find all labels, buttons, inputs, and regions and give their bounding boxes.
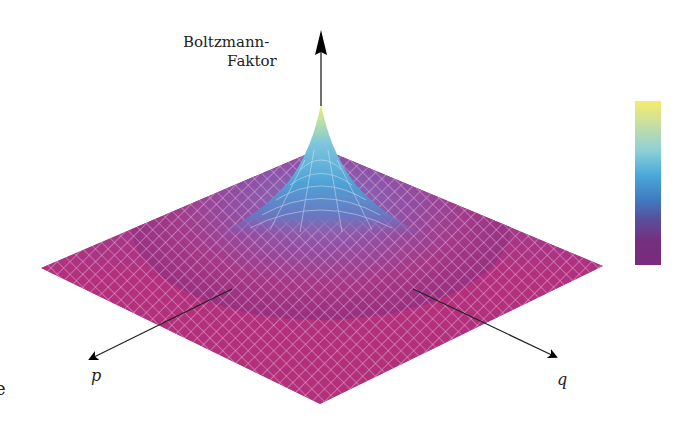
edge-text-fragment: e bbox=[0, 378, 6, 399]
figure: Boltzmann- Faktor p q e bbox=[0, 0, 685, 421]
surface-plane bbox=[0, 100, 685, 421]
q-axis-label: q bbox=[557, 370, 567, 389]
colorbar bbox=[635, 101, 661, 265]
vertical-axis-label: Boltzmann- Faktor bbox=[180, 33, 420, 71]
vertical-axis-label-line1: Boltzmann- bbox=[180, 33, 420, 52]
vertical-axis-label-line2: Faktor bbox=[180, 52, 420, 71]
p-axis-label: p bbox=[91, 366, 101, 385]
